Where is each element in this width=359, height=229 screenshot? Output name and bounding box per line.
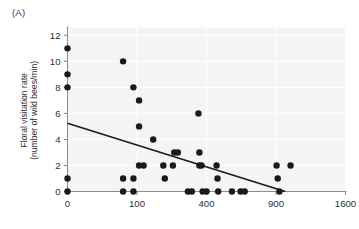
- svg-text:400: 400: [198, 198, 214, 209]
- svg-text:0: 0: [55, 186, 60, 197]
- figure-panel-a: (A) Floral visitation rate (number of wi…: [0, 0, 359, 229]
- svg-text:1600: 1600: [335, 198, 356, 209]
- svg-text:12: 12: [50, 30, 61, 41]
- svg-text:900: 900: [268, 198, 284, 209]
- svg-text:6: 6: [55, 108, 60, 119]
- svg-text:10: 10: [50, 56, 61, 67]
- svg-text:4: 4: [55, 134, 61, 145]
- svg-text:0: 0: [65, 198, 70, 209]
- svg-text:2: 2: [55, 160, 60, 171]
- svg-text:8: 8: [55, 82, 60, 93]
- svg-text:100: 100: [129, 198, 145, 209]
- scatter-plot: 02468101201004009001600: [0, 0, 359, 229]
